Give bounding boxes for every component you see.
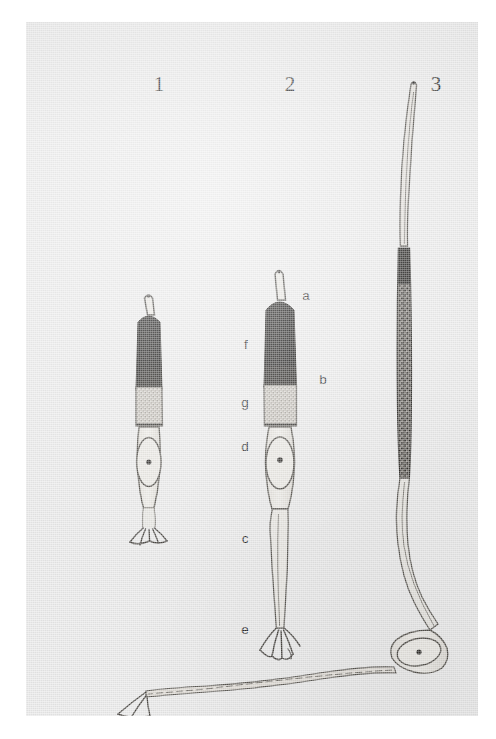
figure-3-long-horizontal-tail <box>146 667 396 697</box>
figure-3-curved-neck <box>396 478 438 630</box>
figure-number-1: 1 <box>146 74 172 95</box>
key-label-a: a <box>298 289 314 303</box>
figure-3-branched-foot <box>118 692 150 716</box>
key-label-c: c <box>237 532 253 546</box>
figure-2-nuclear-oval <box>266 437 294 489</box>
figure-1-branched-foot <box>130 528 167 545</box>
plate-artwork <box>26 22 478 716</box>
key-label-b: b <box>315 373 331 387</box>
key-label-f: f <box>238 338 254 352</box>
figure-1-dark-head <box>136 316 162 390</box>
key-label-d: d <box>237 440 253 454</box>
figure-number-2: 2 <box>277 74 303 95</box>
figure-2-apical-spike <box>275 271 286 301</box>
figure-2-drawing <box>260 271 300 660</box>
figure-2-oval-body <box>265 427 294 509</box>
figure-number-3: 3 <box>423 74 449 95</box>
figure-2-nucleus-dot <box>277 457 283 463</box>
figure-1-drawing <box>130 295 167 545</box>
key-label-e: e <box>237 623 253 637</box>
scanned-plate: 1 2 3 a f b g d c e <box>26 22 478 716</box>
figure-1-apical-spike <box>145 295 155 315</box>
figure-2-long-flagellum <box>270 509 288 628</box>
figure-plate-page: 1 2 3 a f b g d c e <box>0 0 496 739</box>
figure-1-nucleus-dot <box>146 459 151 464</box>
figure-3-oval-body <box>391 630 448 673</box>
figure-3-nucleus-dot <box>416 649 421 654</box>
figure-2-branched-foot <box>260 628 300 660</box>
figure-1-oval-body <box>137 427 161 508</box>
figure-1-pale-collar <box>136 387 163 426</box>
key-label-g: g <box>237 396 253 410</box>
figure-3-apical-filament <box>400 81 417 246</box>
figure-3-long-dark-rod <box>397 248 411 478</box>
figure-2-pale-collar <box>264 385 297 426</box>
figure-2-dark-head <box>264 302 297 388</box>
